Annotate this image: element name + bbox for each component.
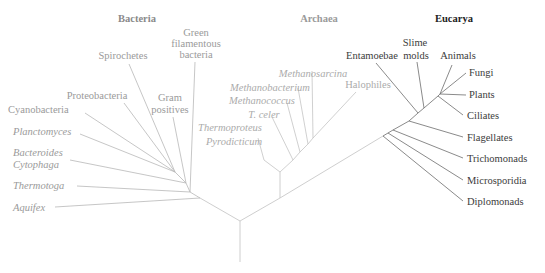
taxon-label: Entamoebae bbox=[346, 50, 398, 61]
eucarya-labels: Entamoebae Slime molds Animals Fungi Pla… bbox=[346, 37, 527, 207]
bacteria-labels: Green filamentous bacteria Spirochetes P… bbox=[8, 27, 221, 213]
taxon-label: Aquifex bbox=[12, 202, 45, 213]
taxon-label: Halophiles bbox=[345, 79, 391, 90]
taxon-label: Plants bbox=[469, 89, 495, 100]
domain-title-eucarya: Eucarya bbox=[435, 13, 474, 24]
taxon-label: Methanosarcina bbox=[278, 68, 347, 79]
taxon-label: filamentous bbox=[171, 38, 221, 49]
taxon-label: T. celer bbox=[248, 109, 280, 120]
phylogenetic-tree: Bacteria Archaea Eucarya Green filamento… bbox=[0, 0, 545, 273]
root-branches bbox=[200, 136, 383, 262]
taxon-label: Microsporidia bbox=[467, 175, 527, 186]
taxon-label: Flagellates bbox=[467, 132, 513, 143]
taxon-label: Fungi bbox=[469, 67, 494, 78]
taxon-label: Green bbox=[183, 27, 209, 38]
taxon-label: Methanococcus bbox=[228, 95, 295, 106]
taxon-label: Gram bbox=[158, 92, 182, 103]
taxon-label: Ciliates bbox=[467, 110, 499, 121]
taxon-label: bacteria bbox=[179, 49, 213, 60]
taxon-label: molds bbox=[403, 50, 429, 61]
taxon-label: Slime bbox=[403, 37, 428, 48]
bacteria-branches bbox=[55, 62, 200, 207]
archaea-eukarya-stem bbox=[240, 198, 280, 221]
taxon-label: Cytophaga bbox=[13, 159, 59, 170]
taxon-label: Proteobacteria bbox=[67, 90, 128, 101]
bacteria-stem bbox=[200, 198, 240, 221]
taxon-label: Cyanobacteria bbox=[8, 104, 69, 115]
taxon-label: Bacteroides bbox=[13, 147, 63, 158]
archaea-labels: Methanosarcina Methanobacterium Methanoc… bbox=[198, 68, 391, 147]
taxon-label: Pyrodicticum bbox=[205, 136, 263, 147]
taxon-label: Animals bbox=[440, 50, 476, 61]
domain-title-bacteria: Bacteria bbox=[118, 13, 157, 24]
taxon-label: Trichomonads bbox=[467, 153, 527, 164]
taxon-label: Diplomonads bbox=[467, 196, 524, 207]
taxon-label: Planctomyces bbox=[12, 126, 71, 137]
taxon-label: Thermoproteus bbox=[198, 122, 262, 133]
taxon-label: Methanobacterium bbox=[229, 82, 310, 93]
taxon-label: Spirochetes bbox=[99, 50, 148, 61]
taxon-label: Thermotoga bbox=[13, 180, 64, 191]
eukarya-stem bbox=[280, 136, 383, 198]
taxon-label: positives bbox=[151, 104, 188, 115]
domain-title-archaea: Archaea bbox=[300, 13, 338, 24]
